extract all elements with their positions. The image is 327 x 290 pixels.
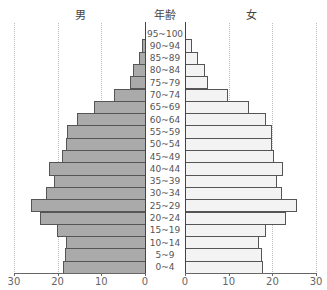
axis-left	[145, 22, 146, 274]
male-header: 男	[75, 6, 86, 22]
tick-label-left: 10	[95, 276, 108, 287]
bar-male-60~64	[77, 113, 146, 126]
age-label: 85~89	[145, 52, 185, 64]
axis-right	[185, 22, 186, 274]
bar-male-0~4	[63, 261, 146, 274]
bar-female-15~19	[185, 224, 266, 237]
age-label: 90~94	[145, 40, 185, 52]
gridline-left-30	[14, 23, 15, 274]
age-label: 0~4	[145, 261, 185, 273]
age-label: 40~44	[145, 163, 185, 175]
bar-male-10~14	[66, 236, 146, 249]
bar-male-70~74	[114, 89, 146, 102]
bar-male-15~19	[57, 224, 146, 237]
bar-female-65~69	[185, 101, 249, 114]
tick-label-left: 30	[8, 276, 21, 287]
bar-male-75~79	[130, 76, 146, 89]
tick-label-right: 10	[222, 276, 235, 287]
bar-male-55~59	[67, 125, 146, 138]
age-label: 20~24	[145, 212, 185, 224]
age-label: 60~64	[145, 114, 185, 126]
bar-female-50~54	[185, 138, 272, 151]
bar-male-30~34	[46, 187, 146, 200]
bar-male-50~54	[66, 138, 146, 151]
bar-male-65~69	[94, 101, 146, 114]
age-label: 70~74	[145, 89, 185, 101]
age-label: 95~100	[145, 28, 185, 40]
gridline-right-30	[316, 23, 317, 274]
bar-male-20~24	[40, 212, 146, 225]
bar-female-30~34	[185, 187, 282, 200]
age-header: 年齢	[154, 6, 176, 22]
bar-male-25~29	[31, 199, 146, 212]
tick-label-left: 0	[142, 276, 148, 287]
bar-male-45~49	[62, 150, 146, 163]
bar-female-35~39	[185, 175, 277, 188]
age-label: 50~54	[145, 138, 185, 150]
bar-female-60~64	[185, 113, 266, 126]
bar-female-5~9	[185, 248, 262, 261]
x-axis-left	[14, 273, 145, 274]
age-label: 55~59	[145, 126, 185, 138]
age-label: 10~14	[145, 237, 185, 249]
bar-female-80~84	[185, 64, 205, 77]
age-label: 35~39	[145, 175, 185, 187]
gridline-right-20	[272, 23, 273, 274]
age-label: 5~9	[145, 249, 185, 261]
tick-label-right: 0	[182, 276, 188, 287]
age-label: 25~29	[145, 200, 185, 212]
bar-male-40~44	[49, 162, 146, 175]
age-label: 15~19	[145, 224, 185, 236]
age-label: 80~84	[145, 64, 185, 76]
bar-female-90~94	[185, 39, 192, 52]
age-label: 45~49	[145, 151, 185, 163]
bar-female-70~74	[185, 89, 228, 102]
bar-male-5~9	[65, 248, 146, 261]
bar-female-75~79	[185, 76, 208, 89]
bar-female-20~24	[185, 212, 286, 225]
bar-female-0~4	[185, 261, 263, 274]
bar-female-45~49	[185, 150, 274, 163]
age-label: 65~69	[145, 101, 185, 113]
bar-male-35~39	[54, 175, 146, 188]
bar-female-10~14	[185, 236, 259, 249]
tick-label-left: 20	[51, 276, 64, 287]
tick-label-right: 30	[310, 276, 323, 287]
female-header: 女	[246, 6, 257, 22]
bar-female-25~29	[185, 199, 297, 212]
bar-female-85~89	[185, 52, 198, 65]
age-label: 30~34	[145, 187, 185, 199]
x-axis-right	[185, 273, 316, 274]
bar-female-55~59	[185, 125, 272, 138]
age-label: 75~79	[145, 77, 185, 89]
bar-female-40~44	[185, 162, 283, 175]
tick-label-right: 20	[266, 276, 279, 287]
